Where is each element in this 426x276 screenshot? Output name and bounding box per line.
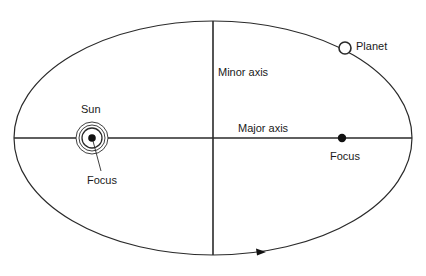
sun-focus-label: Focus <box>87 174 117 186</box>
empty-focus-label: Focus <box>330 150 360 162</box>
planet-label: Planet <box>356 40 387 52</box>
empty-focus-dot <box>338 134 346 142</box>
sun-icon <box>76 122 108 154</box>
minor-axis-label: Minor axis <box>218 66 268 78</box>
planet-icon <box>339 42 351 54</box>
orbit-direction-arrow-icon <box>256 249 266 256</box>
sun-label: Sun <box>81 103 101 115</box>
major-axis-label: Major axis <box>238 122 288 134</box>
